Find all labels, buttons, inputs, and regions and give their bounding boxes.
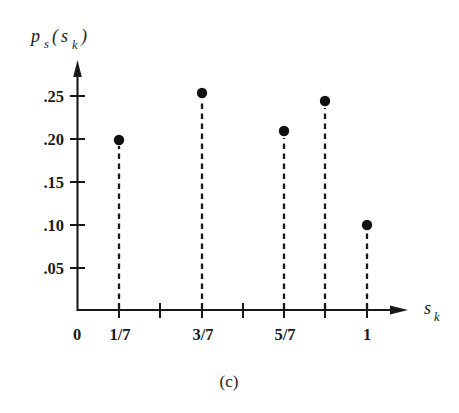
y-axis-label-close-paren: ) xyxy=(80,26,87,47)
y-tick-label-3: .20 xyxy=(43,130,64,149)
x-tick-label-1: 1/7 xyxy=(109,325,130,344)
data-point-1 xyxy=(197,88,207,98)
data-point-3 xyxy=(320,96,330,106)
x-axis-arrowhead xyxy=(390,305,408,314)
y-axis-label-open-paren: ( xyxy=(52,26,59,47)
data-point-0 xyxy=(114,135,124,145)
figure-caption: (c) xyxy=(220,372,239,391)
data-series-stems xyxy=(119,100,367,309)
y-axis-label-arg-subscript: k xyxy=(72,38,78,52)
y-axis-label-p-subscript: s xyxy=(44,37,49,51)
data-point-2 xyxy=(279,126,289,136)
y-tick-label-2: .15 xyxy=(43,173,64,192)
x-tick-label-4: 1 xyxy=(363,325,371,344)
data-point-4 xyxy=(362,220,372,230)
y-axis-label-arg: s xyxy=(61,26,68,46)
y-tick-label-0: .05 xyxy=(43,259,64,278)
y-axis-arrowhead xyxy=(73,60,82,77)
y-axis-label-p: p xyxy=(29,26,40,46)
x-axis-title-subscript: k xyxy=(434,310,440,324)
x-axis-title: s k xyxy=(424,298,440,324)
y-tick-label-1: .10 xyxy=(43,216,64,235)
figure-container: p s ( s k ) .05 .10 .15 .20 .25 xyxy=(0,0,459,413)
x-axis-title-s: s xyxy=(424,298,431,318)
x-axis-tick-labels: 0 1/7 3/7 5/7 1 xyxy=(73,325,371,344)
x-tick-label-2: 3/7 xyxy=(192,325,213,344)
stem-plot-svg: p s ( s k ) .05 .10 .15 .20 .25 xyxy=(0,0,459,413)
data-series-points xyxy=(114,88,372,230)
y-axis-label: p s ( s k ) xyxy=(29,26,87,52)
x-tick-label-3: 5/7 xyxy=(274,325,295,344)
x-tick-label-0: 0 xyxy=(73,325,81,344)
y-tick-label-4: .25 xyxy=(43,87,64,106)
y-axis-tick-labels: .05 .10 .15 .20 .25 xyxy=(43,87,64,278)
